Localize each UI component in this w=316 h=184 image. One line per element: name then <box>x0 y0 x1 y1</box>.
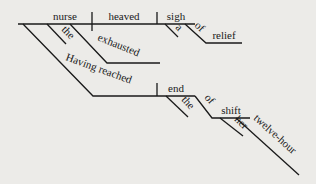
shift-modifier-twelve-hour: twelve-hour <box>252 112 300 157</box>
prep1-word: of <box>203 91 218 106</box>
subject-modifier-the: the <box>60 23 78 41</box>
object-word: sigh <box>167 10 186 22</box>
prep1-object-word: shift <box>221 104 241 116</box>
participle-word: Having reached <box>64 51 134 86</box>
prep2-object-word: relief <box>212 29 236 41</box>
sentence-diagram: nurse heaved sigh the exhausted Having r… <box>0 0 316 184</box>
verb-word: heaved <box>108 10 140 22</box>
subject-modifier-exhausted: exhausted <box>96 31 142 59</box>
participle-object-word: end <box>168 82 184 94</box>
prep2-word: of <box>193 19 208 34</box>
subject-word: nurse <box>53 10 77 22</box>
object-modifier-a: a <box>174 21 186 33</box>
